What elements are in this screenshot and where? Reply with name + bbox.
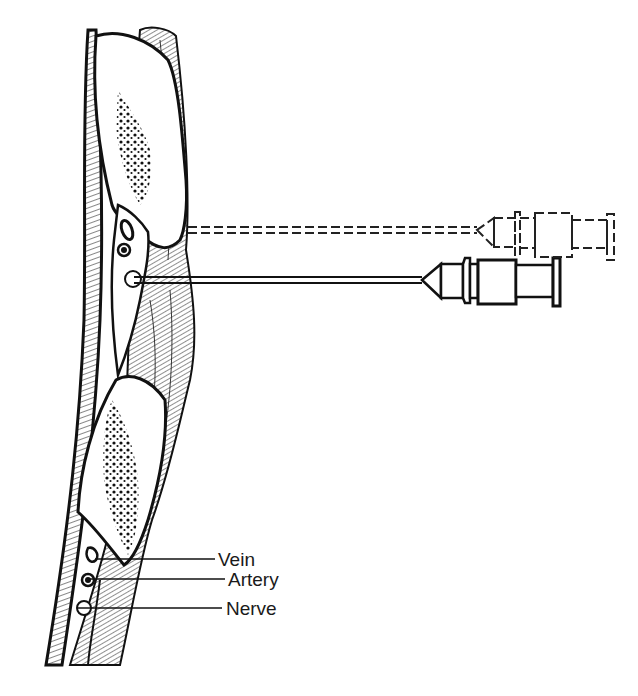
- artery-label: Artery: [228, 569, 279, 590]
- nerve-upper-icon: [125, 271, 141, 287]
- nerve-block-illustration: Vein Artery Nerve: [0, 0, 638, 696]
- syringe-dashed: [188, 212, 614, 260]
- vein-label: Vein: [218, 549, 255, 570]
- soft-tissue-left: [46, 30, 102, 665]
- nerve-label: Nerve: [226, 598, 277, 619]
- syringe-solid: [134, 258, 560, 306]
